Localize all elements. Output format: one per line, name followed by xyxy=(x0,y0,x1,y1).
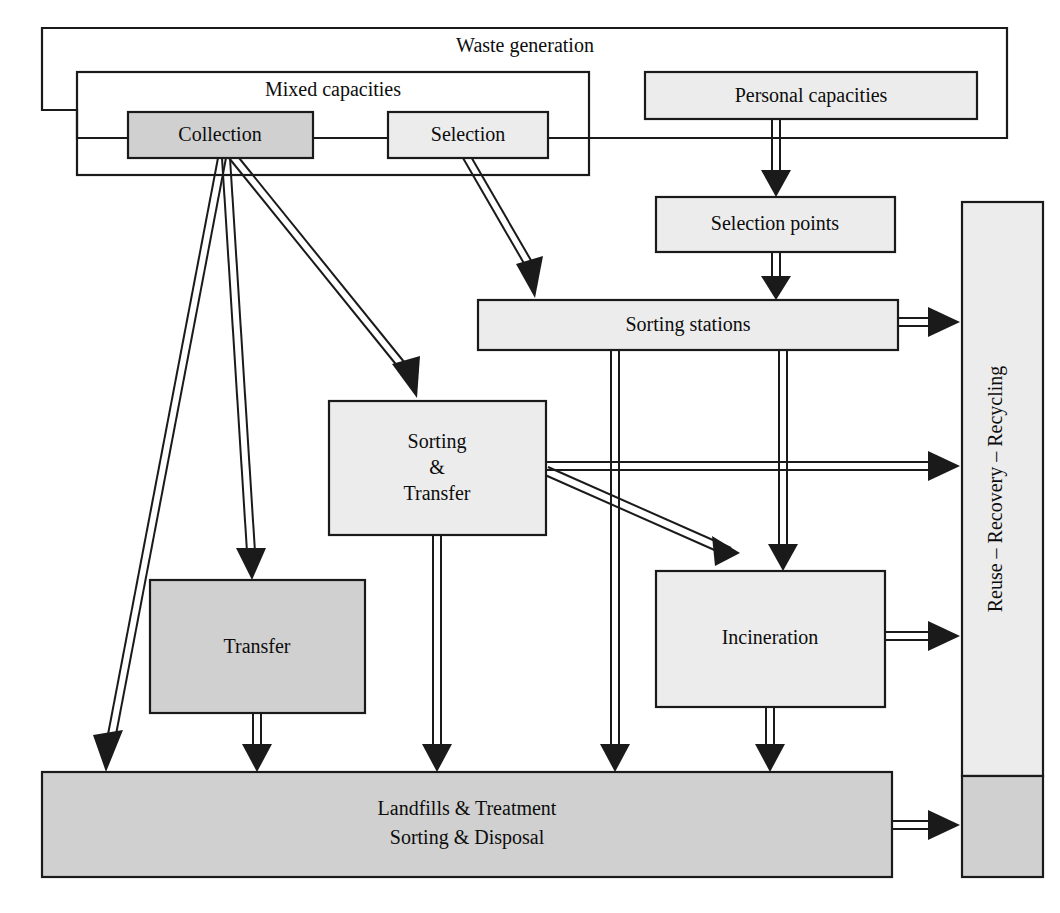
edge-sorting-stations-to-incineration xyxy=(768,350,798,571)
edge-sorting-transfer-to-incineration xyxy=(545,467,740,566)
group-label-mixed-capacities: Mixed capacities xyxy=(265,78,401,101)
node-label-landfills-line1: Landfills & Treatment xyxy=(378,797,557,819)
edge-collection-to-transfer xyxy=(222,158,266,580)
edge-sorting-transfer-to-landfills xyxy=(422,535,452,772)
edge-collection-to-sorting-transfer xyxy=(229,153,420,398)
edge-selection-points-to-sorting-stations xyxy=(761,252,791,300)
edge-sorting-stations-to-recovery xyxy=(898,307,960,337)
node-label-transfer: Transfer xyxy=(223,635,290,657)
edge-selection-to-sorting-stations xyxy=(463,155,543,298)
node-label-sorting-transfer-line2: & xyxy=(429,456,445,478)
node-label-selection: Selection xyxy=(431,123,505,145)
node-label-collection: Collection xyxy=(178,123,261,145)
edge-incineration-to-landfills xyxy=(755,707,785,772)
node-label-selection-points: Selection points xyxy=(711,212,840,235)
edge-sorting-transfer-to-recovery xyxy=(546,451,960,481)
edge-landfills-to-recovery xyxy=(892,810,960,840)
waste-management-flow-diagram: Waste generation Mixed capacities xyxy=(0,0,1060,913)
edge-transfer-to-landfills xyxy=(242,713,272,772)
node-label-sorting-stations: Sorting stations xyxy=(625,313,750,336)
group-label-waste-generation: Waste generation xyxy=(456,34,594,57)
node-recovery-bar-lower[interactable] xyxy=(962,776,1043,877)
node-label-personal-capacities: Personal capacities xyxy=(735,84,888,107)
node-label-sorting-transfer-line1: Sorting xyxy=(408,430,467,453)
edge-incineration-to-recovery xyxy=(885,621,960,651)
node-label-sorting-transfer-line3: Transfer xyxy=(403,482,470,504)
node-landfills[interactable] xyxy=(42,772,892,877)
flow-diagram-canvas: Waste generation Mixed capacities xyxy=(0,0,1060,913)
node-label-recovery-bar: Reuse – Recovery – Recycling xyxy=(984,366,1007,613)
edge-sorting-stations-to-landfills xyxy=(600,350,630,772)
edge-personal-capacities-to-selection-points xyxy=(761,119,791,197)
node-label-incineration: Incineration xyxy=(722,626,819,648)
node-label-landfills-line2: Sorting & Disposal xyxy=(390,826,545,849)
